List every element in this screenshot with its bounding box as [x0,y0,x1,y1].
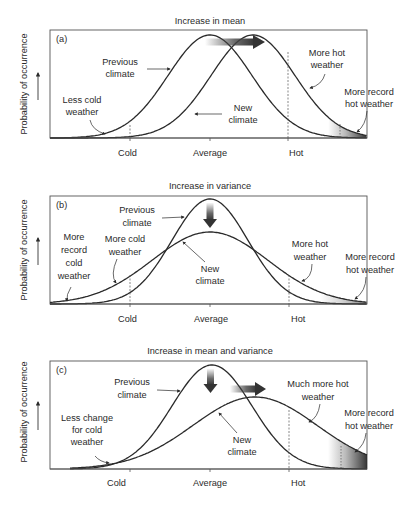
label-more-cold-weather: More coldweather [105,234,145,257]
x-tick-cold: Cold [118,314,137,324]
x-tick-hot: Hot [289,148,304,158]
label-much-more-hot-weather: Much more hotweather [287,379,349,402]
svg-text:Probability of occurrence: Probability of occurrence [19,33,29,134]
label-more-hot-weather: More hotweather [292,239,329,262]
svg-text:Probability of occurrence: Probability of occurrence [19,199,29,300]
label-more-record-hot-weather: More recordhot weather [344,408,394,431]
panel-a: Increase in mean (a) Probability of occu… [19,16,394,158]
panel-title: Increase in mean [175,16,245,26]
record-hot-shading [328,433,367,469]
shift-down-arrow-icon [207,203,214,220]
label-new-climate: Newclimate [195,264,224,286]
label-previous-climate: Previousclimate [114,377,150,400]
label-previous-climate: Previousclimate [119,205,155,228]
x-tick-hot: Hot [291,478,306,488]
label-more-record-hot-weather: More recordhot weather [345,252,395,275]
record-hot-shading [320,292,367,304]
climate-distribution-figure: Increase in mean (a) Probability of occu… [0,0,419,505]
shift-down-arrow-icon [207,369,214,385]
x-tick-cold: Cold [118,148,137,158]
panel-tag: (c) [56,365,67,375]
panel-tag: (a) [56,34,67,44]
panel-c: Increase in mean and variance (c) Probab… [19,346,394,488]
x-tick-average: Average [193,148,227,158]
label-more-hot-weather: More hotweather [309,48,346,70]
label-new-climate: Newclimate [228,103,257,125]
x-tick-hot: Hot [291,314,306,324]
x-tick-average: Average [194,314,228,324]
panel-title: Increase in variance [169,181,251,191]
label-less-cold-weather: Less coldweather [63,95,102,117]
panel-b: Increase in variance (b) Probability of … [19,181,395,324]
x-tick-average: Average [193,478,227,488]
panel-title: Increase in mean and variance [147,346,273,356]
label-less-change-cold-weather: Less changefor coldweather [61,413,113,447]
svg-text:Probability of occurrence: Probability of occurrence [19,361,29,462]
y-axis-label: Probability of occurrence [19,33,29,134]
panel-tag: (b) [56,200,67,210]
x-tick-cold: Cold [107,478,126,488]
new-climate-curve [70,397,367,468]
label-more-record-cold-weather: Morerecordcoldweather [57,232,91,281]
label-new-climate: Newclimate [227,435,256,457]
y-axis-label: Probability of occurrence [19,199,29,300]
shift-right-arrow-icon [205,39,255,46]
label-previous-climate: Previousclimate [102,57,138,79]
shift-right-arrow-icon [230,386,257,393]
y-axis-label: Probability of occurrence [19,361,29,462]
plot-frame [50,30,367,138]
label-more-record-hot-weather: More recordhot weather [344,87,394,109]
